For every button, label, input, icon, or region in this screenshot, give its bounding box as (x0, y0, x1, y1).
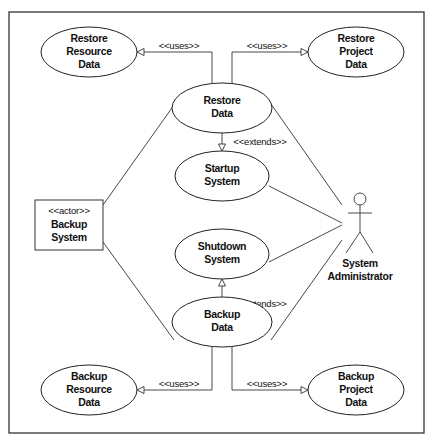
svg-text:Backup: Backup (51, 218, 87, 230)
uses-arrowhead-restore-resource (137, 49, 144, 56)
actor-stereotype: <<actor>> (48, 205, 90, 216)
svg-text:Resource: Resource (66, 383, 112, 395)
uses-label-restore-project: <<uses>> (247, 40, 288, 51)
association-backupsystem-backup (103, 242, 174, 340)
actor-backup-system[interactable]: <<actor>> Backup System (35, 200, 103, 250)
extends-arrowhead-startup (219, 144, 226, 151)
uses-connector-restore-project (232, 52, 301, 83)
use-case-restore-resource-data[interactable]: Restore Resource Data (41, 27, 137, 77)
uses-label-restore-resource: <<uses>> (159, 40, 200, 51)
svg-text:Restore: Restore (71, 32, 108, 44)
uses-arrowhead-backup-resource (137, 387, 144, 394)
uses-label-backup-project: <<uses>> (247, 378, 288, 389)
actor-system-administrator[interactable]: System Administrator (328, 193, 393, 282)
use-case-backup-project-data[interactable]: Backup Project Data (308, 365, 404, 415)
svg-text:Data: Data (78, 58, 100, 70)
extends-arrowhead-shutdown (219, 279, 226, 286)
svg-text:Data: Data (78, 396, 100, 408)
svg-text:System: System (342, 257, 378, 269)
association-backupsystem-restore (103, 105, 174, 205)
svg-text:Data: Data (211, 107, 233, 119)
association-admin-restore (271, 104, 342, 205)
svg-text:System: System (204, 175, 240, 187)
svg-text:Resource: Resource (66, 45, 112, 57)
svg-text:Backup: Backup (204, 308, 240, 320)
use-case-diagram: <<uses>> <<uses>> <<extends>> <<extends>… (0, 0, 434, 441)
svg-text:Restore: Restore (338, 32, 375, 44)
svg-text:Data: Data (345, 396, 367, 408)
svg-text:Data: Data (211, 321, 233, 333)
uses-label-backup-resource: <<uses>> (159, 378, 200, 389)
use-case-restore-data[interactable]: Restore Data (172, 83, 272, 133)
svg-text:System: System (51, 231, 87, 243)
uses-arrowhead-restore-project (301, 49, 308, 56)
use-case-startup-system[interactable]: Startup System (175, 151, 269, 201)
svg-text:Backup: Backup (338, 370, 374, 382)
svg-text:Project: Project (339, 383, 373, 395)
svg-text:Startup: Startup (205, 162, 240, 174)
svg-text:Project: Project (339, 45, 373, 57)
svg-text:Restore: Restore (204, 94, 241, 106)
svg-text:System: System (204, 253, 240, 265)
association-admin-shutdown (269, 225, 342, 262)
association-admin-backup (271, 240, 342, 340)
svg-text:Data: Data (345, 58, 367, 70)
extends-label-startup: <<extends>> (233, 136, 287, 147)
svg-text:Shutdown: Shutdown (198, 240, 246, 252)
use-case-backup-resource-data[interactable]: Backup Resource Data (41, 365, 137, 415)
association-admin-startup (269, 186, 342, 223)
svg-text:Administrator: Administrator (328, 270, 393, 282)
use-case-shutdown-system[interactable]: Shutdown System (175, 229, 269, 279)
uses-arrowhead-backup-project (301, 387, 308, 394)
use-case-restore-project-data[interactable]: Restore Project Data (308, 27, 404, 77)
stick-figure-icon (346, 193, 373, 253)
use-case-backup-data[interactable]: Backup Data (172, 297, 272, 347)
uses-connector-restore-resource (143, 52, 212, 83)
svg-text:Backup: Backup (71, 370, 107, 382)
